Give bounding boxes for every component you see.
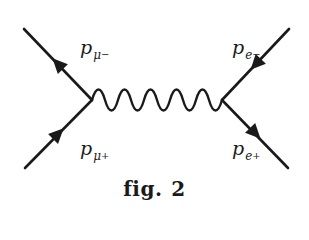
charge-sign: − [252,49,260,60]
momentum-symbol: p [232,137,244,159]
label-p-mu-plus: pμ+ [80,139,109,158]
label-p-e-minus: pe− [232,38,261,57]
caption-prefix: fig. [123,177,162,201]
label-p-mu-minus: pμ− [80,38,109,57]
caption-number: 2 [171,177,185,201]
subscript: μ [93,48,101,62]
momentum-symbol: p [80,137,92,159]
charge-sign: + [252,150,260,161]
charge-sign: + [101,150,109,161]
charge-sign: − [101,49,109,60]
photon-propagator [92,90,222,111]
momentum-symbol: p [80,36,92,58]
subscript: μ [93,149,101,163]
figure-caption: fig.2 [0,177,309,201]
momentum-symbol: p [232,36,244,58]
label-p-e-plus: pe+ [232,139,261,158]
